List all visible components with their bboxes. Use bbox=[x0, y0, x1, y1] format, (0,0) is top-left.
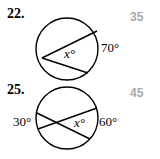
angle-label-25: x° bbox=[73, 115, 85, 130]
angle-label-22: x° bbox=[63, 46, 75, 61]
arc-right-label-25: 60° bbox=[99, 114, 117, 129]
figure-25: x° 30° 60° bbox=[13, 87, 117, 149]
geometry-figures: x° 70° x° 30° 60° bbox=[0, 0, 160, 159]
figure-22: x° 70° bbox=[36, 18, 119, 80]
arc-left-label-25: 30° bbox=[13, 114, 31, 129]
arc-label-22: 70° bbox=[101, 40, 119, 55]
